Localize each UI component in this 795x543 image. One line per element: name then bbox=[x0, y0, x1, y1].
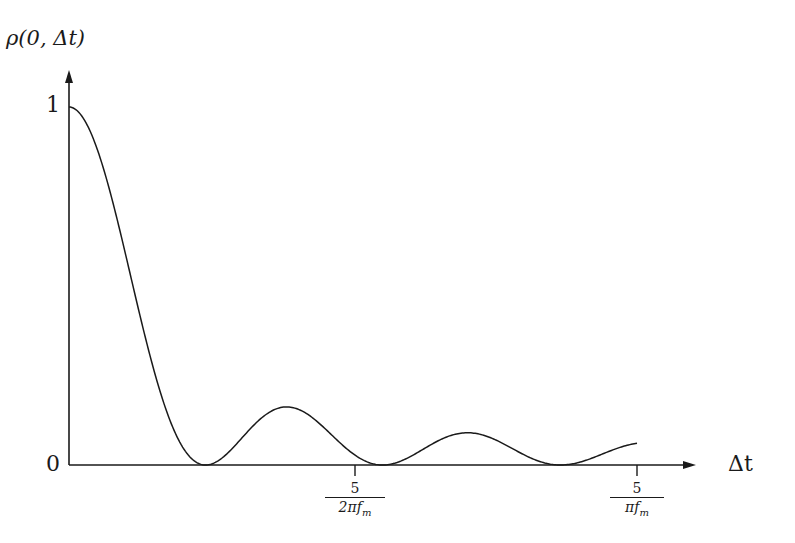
plot-area bbox=[0, 0, 795, 543]
fraction-bar bbox=[325, 497, 385, 498]
y-tick-label-one: 1 bbox=[46, 92, 60, 117]
x-tick-label-2-numerator: 5 bbox=[610, 480, 664, 496]
x-axis-label: Δt bbox=[728, 451, 753, 476]
x-tick-label-1: 5 2πfm bbox=[325, 480, 385, 521]
x-tick-label-1-denominator: 2πfm bbox=[325, 499, 385, 521]
x-axis-arrow-icon bbox=[683, 461, 696, 469]
y-tick-label-zero: 0 bbox=[46, 451, 60, 476]
x-tick-label-2-denominator: πfm bbox=[610, 499, 664, 521]
x-tick-label-1-numerator: 5 bbox=[325, 480, 385, 496]
x-tick-label-2-den-sub: m bbox=[639, 507, 648, 518]
x-tick-label-1-den-sub: m bbox=[362, 507, 371, 518]
y-axis-label: ρ(0, Δt) bbox=[6, 26, 85, 50]
x-tick-label-2: 5 πfm bbox=[610, 480, 664, 521]
correlation-curve bbox=[69, 107, 637, 465]
fraction-bar bbox=[610, 497, 664, 498]
x-tick-label-2-den-main: πf bbox=[625, 499, 639, 515]
y-axis-arrow-icon bbox=[65, 70, 73, 83]
x-tick-label-1-den-main: 2πf bbox=[339, 499, 362, 515]
